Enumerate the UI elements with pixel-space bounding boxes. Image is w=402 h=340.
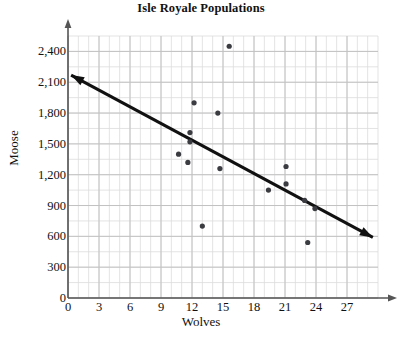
major-gridlines: [68, 36, 378, 298]
chart-container: Isle Royale Populations Moose Wolves 030…: [0, 0, 402, 340]
data-point: [302, 198, 307, 203]
data-point: [312, 206, 317, 211]
data-point: [176, 152, 181, 157]
data-point: [227, 44, 232, 49]
data-point: [185, 160, 190, 165]
data-point: [187, 139, 192, 144]
data-point: [200, 223, 205, 228]
data-point: [283, 164, 288, 169]
data-point: [187, 130, 192, 135]
data-point: [305, 240, 310, 245]
data-point: [215, 110, 220, 115]
data-point: [191, 100, 196, 105]
plot-area: [0, 0, 402, 340]
trend-line: [71, 75, 373, 237]
data-point: [266, 188, 271, 193]
data-point: [217, 166, 222, 171]
data-point: [283, 181, 288, 186]
